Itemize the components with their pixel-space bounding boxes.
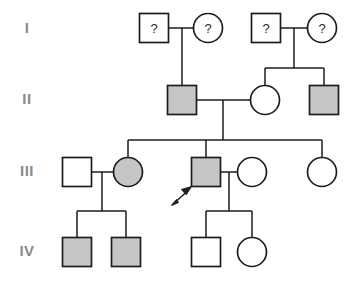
male-square-unaffected[interactable] <box>63 158 92 187</box>
individual-iii-2[interactable] <box>114 158 143 187</box>
generation-label-i: I <box>25 19 30 36</box>
generation-label-group: I II III IV <box>19 19 34 259</box>
individual-iii-5[interactable] <box>308 158 337 187</box>
female-circle-unaffected[interactable] <box>238 158 267 187</box>
pedigree-canvas: I II III IV <box>0 0 360 282</box>
generation-label-iv: IV <box>19 242 34 259</box>
female-circle-unaffected[interactable] <box>251 86 280 115</box>
generation-iv-symbols <box>63 238 267 267</box>
individual-iv-3[interactable] <box>192 238 221 267</box>
individual-iii-4[interactable] <box>238 158 267 187</box>
individual-i-1[interactable]: ? <box>140 14 169 43</box>
unknown-status-label: ? <box>150 21 157 36</box>
generation-ii-symbols <box>168 86 339 115</box>
male-square-affected[interactable] <box>63 238 92 267</box>
individual-i-3[interactable]: ? <box>252 14 281 43</box>
unknown-status-label: ? <box>262 21 269 36</box>
generation-label-ii: II <box>22 90 31 107</box>
individual-iv-2[interactable] <box>112 238 141 267</box>
individual-ii-3[interactable] <box>310 86 339 115</box>
unknown-status-label: ? <box>318 21 325 36</box>
female-circle-unaffected[interactable] <box>238 238 267 267</box>
connector-lines <box>77 28 324 238</box>
individual-iv-1[interactable] <box>63 238 92 267</box>
generation-i-symbols: ? ? ? ? <box>140 14 337 43</box>
individual-ii-2[interactable] <box>251 86 280 115</box>
male-square-affected[interactable] <box>168 86 197 115</box>
female-circle-affected[interactable] <box>114 158 143 187</box>
individual-iii-1[interactable] <box>63 158 92 187</box>
individual-iii-3[interactable] <box>192 158 221 187</box>
individual-iv-4[interactable] <box>238 238 267 267</box>
male-square-affected[interactable] <box>112 238 141 267</box>
individual-i-4[interactable]: ? <box>308 14 337 43</box>
pedigree-chart: I II III IV <box>0 0 360 282</box>
male-square-affected-proband[interactable] <box>192 158 221 187</box>
proband-arrow-icon <box>172 187 192 206</box>
proband-arrow-tail-flare <box>172 200 179 206</box>
unknown-status-label: ? <box>204 21 211 36</box>
generation-label-iii: III <box>20 162 34 179</box>
female-circle-unaffected[interactable] <box>308 158 337 187</box>
male-square-affected[interactable] <box>310 86 339 115</box>
individual-i-2[interactable]: ? <box>194 14 223 43</box>
proband-arrow-head <box>182 187 192 195</box>
individual-ii-1[interactable] <box>168 86 197 115</box>
male-square-unaffected[interactable] <box>192 238 221 267</box>
